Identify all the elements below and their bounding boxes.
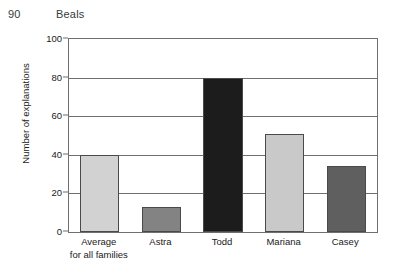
x-axis-label-casey: Casey xyxy=(332,236,359,249)
x-axis-label-average-for-all-families: Averagefor all families xyxy=(70,236,128,261)
running-title: Beals xyxy=(56,8,85,20)
y-tick-label-100: 100 xyxy=(46,33,62,44)
plot-area xyxy=(68,38,378,233)
y-tick-label-0: 0 xyxy=(57,226,62,237)
x-axis-label-mariana: Mariana xyxy=(266,236,300,249)
y-axis-tick-labels: 020406080100 xyxy=(30,30,68,233)
x-label-line: Average xyxy=(70,236,128,249)
bar-casey xyxy=(327,166,366,232)
x-axis-label-todd: Todd xyxy=(212,236,233,249)
y-tick-label-80: 80 xyxy=(51,71,62,82)
x-label-line: Casey xyxy=(332,236,359,249)
bar-chart-figure: Number of explanations 020406080100 Aver… xyxy=(0,30,398,276)
bar-average-for-all-families xyxy=(80,155,119,232)
bar-mariana xyxy=(265,134,304,232)
y-tick-label-20: 20 xyxy=(51,187,62,198)
y-tick-label-60: 60 xyxy=(51,110,62,121)
y-tick-label-40: 40 xyxy=(51,148,62,159)
x-axis-label-astra: Astra xyxy=(149,236,171,249)
page-running-head: 90 Beals xyxy=(8,8,388,26)
x-label-line: Todd xyxy=(212,236,233,249)
y-axis-title: Number of explanations xyxy=(20,44,31,184)
x-label-line: for all families xyxy=(70,249,128,262)
x-label-line: Astra xyxy=(149,236,171,249)
bar-astra xyxy=(142,207,181,232)
x-axis-category-labels: Averagefor all familiesAstraToddMarianaC… xyxy=(68,236,378,276)
x-label-line: Mariana xyxy=(266,236,300,249)
bar-todd xyxy=(203,78,242,232)
bars xyxy=(69,39,377,232)
page-number: 90 xyxy=(8,8,21,20)
